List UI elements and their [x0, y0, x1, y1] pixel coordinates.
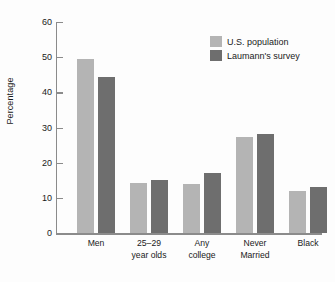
legend-item: Laumann's survey [210, 50, 300, 61]
bar [289, 191, 306, 233]
bar [77, 59, 94, 233]
bar [151, 180, 168, 233]
chart-legend: U.S. populationLaumann's survey [210, 36, 300, 64]
legend-label: Laumann's survey [227, 51, 300, 61]
bar [236, 137, 253, 233]
bar [310, 187, 327, 233]
y-axis-tick-label: 40 [12, 87, 52, 97]
y-axis-tick-label: 50 [12, 52, 52, 62]
y-axis-tick-label: 0 [12, 228, 52, 238]
bar-chart: Percentage 0102030405060 Men25–29year ol… [0, 0, 335, 282]
bar [257, 134, 274, 233]
bar-group [130, 22, 170, 233]
legend-label: U.S. population [227, 37, 289, 47]
legend-item: U.S. population [210, 36, 300, 47]
legend-swatch [210, 50, 222, 61]
bar-group [77, 22, 117, 233]
bar [204, 173, 221, 233]
legend-swatch [210, 36, 222, 47]
y-axis-tick-labels: 0102030405060 [8, 0, 52, 282]
y-axis-tick-label: 10 [12, 193, 52, 203]
x-axis-line [56, 233, 322, 235]
y-axis-tick-label: 60 [12, 17, 52, 27]
bar [183, 184, 200, 233]
bar [130, 183, 147, 233]
bar [98, 77, 115, 233]
y-axis-tick-label: 20 [12, 158, 52, 168]
x-axis-tick-label: Black [273, 238, 335, 250]
y-axis-tick-label: 30 [12, 123, 52, 133]
